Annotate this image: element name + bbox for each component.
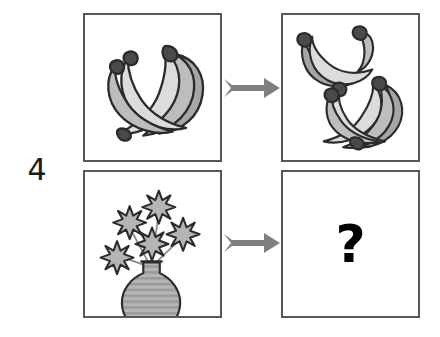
panel-bottom-right-answer[interactable]: ? <box>281 170 420 318</box>
arrow-bottom <box>224 230 280 256</box>
panel-top-left[interactable] <box>83 13 222 162</box>
question-mark: ? <box>283 172 418 316</box>
item-number: 4 <box>14 148 60 192</box>
panel-top-right[interactable] <box>281 13 420 162</box>
banana-bunches-split-image <box>283 15 418 160</box>
analogy-puzzle: 4 <box>0 0 440 337</box>
panel-bottom-left[interactable] <box>83 170 222 318</box>
right-arrow-icon <box>224 230 280 256</box>
flowers-in-vase-image <box>85 172 220 316</box>
right-arrow-icon <box>224 75 280 101</box>
vase <box>122 261 180 316</box>
banana-bunch-whole-image <box>85 15 220 160</box>
arrow-top <box>224 75 280 101</box>
